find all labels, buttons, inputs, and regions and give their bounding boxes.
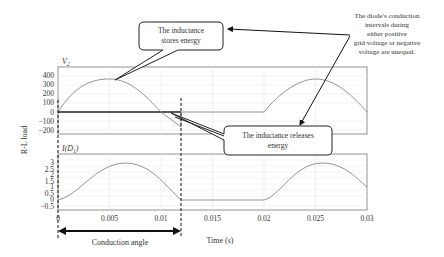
bottom-plot-label: I(D1) <box>61 144 79 154</box>
top-ytick: 100 <box>43 98 55 107</box>
top-ytick: −100 <box>39 117 55 126</box>
conduction-angle-label: Conduction angle <box>92 238 149 247</box>
xtick: 0.01 <box>154 214 167 223</box>
top-plot-label: V2 <box>62 57 70 67</box>
svg-text:intervals during: intervals during <box>365 21 410 29</box>
svg-text:The diode's conduction: The diode's conduction <box>354 12 420 20</box>
conduction-angle-arrow <box>58 227 181 235</box>
note-arrow-to-stores <box>228 29 350 35</box>
bottom-ytick: −0.5 <box>40 202 54 211</box>
top-ytick: −200 <box>39 126 55 135</box>
waveform-figure: R-L load 400 300 200 100 0 −10 <box>0 0 444 257</box>
top-plot: 400 300 200 100 0 −100 −200 V2 <box>39 57 367 135</box>
xtick: 0.005 <box>101 214 118 223</box>
y-axis-label: R-L load <box>20 126 29 154</box>
svg-text:The inductance releases: The inductance releases <box>242 131 314 140</box>
xtick: 0.03 <box>360 214 373 223</box>
svg-text:either positive: either positive <box>367 30 407 38</box>
top-ytick: 400 <box>43 71 55 80</box>
svg-text:energy: energy <box>268 141 289 150</box>
xtick: 0.015 <box>204 214 221 223</box>
svg-text:stores energy: stores energy <box>161 36 201 45</box>
annotation-note: The diode's conduction intervals during … <box>354 12 421 56</box>
top-ytick: 200 <box>43 89 55 98</box>
svg-text:The inductance: The inductance <box>158 26 205 35</box>
xtick: 0.025 <box>307 214 324 223</box>
svg-text:grid voltage or negative: grid voltage or negative <box>354 39 421 47</box>
x-axis-label: Time (s) <box>206 236 233 245</box>
xtick: 0.02 <box>257 214 270 223</box>
svg-text:voltage are unequal.: voltage are unequal. <box>359 48 416 56</box>
top-ytick: 300 <box>43 80 55 89</box>
top-ytick: 0 <box>50 108 54 117</box>
